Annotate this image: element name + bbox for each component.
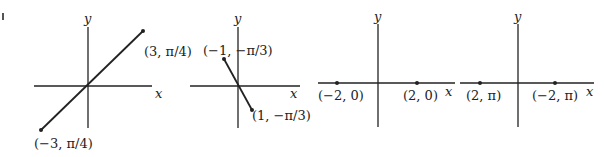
graph-2-point-a-label: (−1, −π/3): [203, 43, 273, 58]
graph-2-point-b-label: (1, −π/3): [252, 108, 311, 123]
graph-4-point-a: [478, 81, 482, 85]
graph-3-point-b-label: (2, 0): [403, 88, 438, 103]
graph-4: y x (2, π) (−2, π): [460, 9, 594, 127]
polar-points-figure: y x (3, π/4) (−3, π/4) y x (−1, −π/3) (1…: [0, 0, 604, 157]
graph-4-point-b-label: (−2, π): [532, 88, 578, 103]
graph-1-point-a-label: (3, π/4): [144, 44, 192, 59]
graph-4-y-label: y: [513, 9, 522, 24]
graph-1-segment: [41, 31, 143, 130]
figure-margin-mark: [2, 13, 4, 20]
graph-1-point-a: [141, 29, 145, 33]
graph-3-point-a: [335, 81, 339, 85]
graph-3-y-label: y: [373, 9, 382, 24]
graph-3: y x (−2, 0) (2, 0): [318, 9, 455, 127]
graph-4-point-b: [553, 81, 557, 85]
graph-1: y x (3, π/4) (−3, π/4): [34, 11, 192, 151]
graph-2-y-label: y: [233, 11, 242, 26]
graph-3-x-label: x: [445, 84, 453, 99]
graph-4-point-a-label: (2, π): [466, 88, 501, 103]
graph-3-point-a-label: (−2, 0): [318, 88, 364, 103]
graph-1-point-b: [39, 128, 43, 132]
graph-4-x-label: x: [586, 84, 594, 99]
graph-1-point-b-label: (−3, π/4): [34, 136, 93, 151]
graph-1-y-label: y: [83, 11, 92, 26]
graph-2-x-label: x: [290, 86, 298, 101]
graph-3-point-b: [415, 81, 419, 85]
graph-2: y x (−1, −π/3) (1, −π/3): [190, 11, 311, 128]
graph-1-x-label: x: [155, 86, 163, 101]
